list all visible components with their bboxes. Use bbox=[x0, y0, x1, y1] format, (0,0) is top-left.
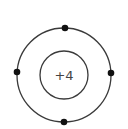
electron-right bbox=[108, 70, 115, 77]
electron-bottom bbox=[61, 119, 68, 126]
electron-top bbox=[62, 25, 69, 32]
bohr-diagram: +4 bbox=[0, 0, 128, 129]
nucleus-charge-label: +4 bbox=[54, 68, 73, 83]
electron-left bbox=[14, 69, 21, 76]
